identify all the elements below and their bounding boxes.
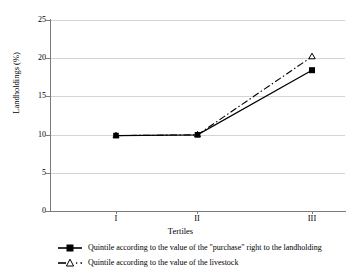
legend-item-purchase-right: Quintile according to the value of the "… (0, 240, 361, 255)
x-tick-label-1: I (96, 213, 136, 223)
series-purchase-right-marker-3 (309, 67, 315, 73)
line-chart-figure: 25 20 15 10 5 0 Landholdings (%) (0, 0, 361, 275)
series-livestock-line (116, 57, 312, 136)
series-purchase-right-marker-2 (195, 132, 201, 138)
legend-label-livestock: Quintile according to the value of the l… (88, 258, 238, 268)
x-tick-label-2: II (177, 213, 217, 223)
y-axis-title-holder: Landholdings (%) (0, 0, 30, 215)
series-purchase-right-marker-1 (113, 133, 119, 139)
legend-label-purchase-right: Quintile according to the value of the "… (88, 243, 322, 253)
x-axis-title: Tertiles (0, 226, 361, 236)
x-axis-line (50, 211, 346, 212)
legend-item-livestock: Quintile according to the value of the l… (0, 255, 361, 270)
legend-symbol-open-triangle-dashdot-line (57, 257, 83, 269)
series-layer (50, 20, 345, 211)
series-livestock-marker-3 (309, 53, 315, 59)
y-axis-title: Landholdings (%) (11, 23, 21, 143)
series-purchase-right-line (116, 70, 312, 135)
x-tick-label-3: III (292, 213, 332, 223)
chart-legend: Quintile according to the value of the "… (0, 240, 361, 270)
series-purchase-right (113, 67, 315, 138)
legend-symbol-filled-square-solid-line (57, 242, 83, 254)
plot-wrapper: 25 20 15 10 5 0 Landholdings (%) (0, 0, 361, 230)
